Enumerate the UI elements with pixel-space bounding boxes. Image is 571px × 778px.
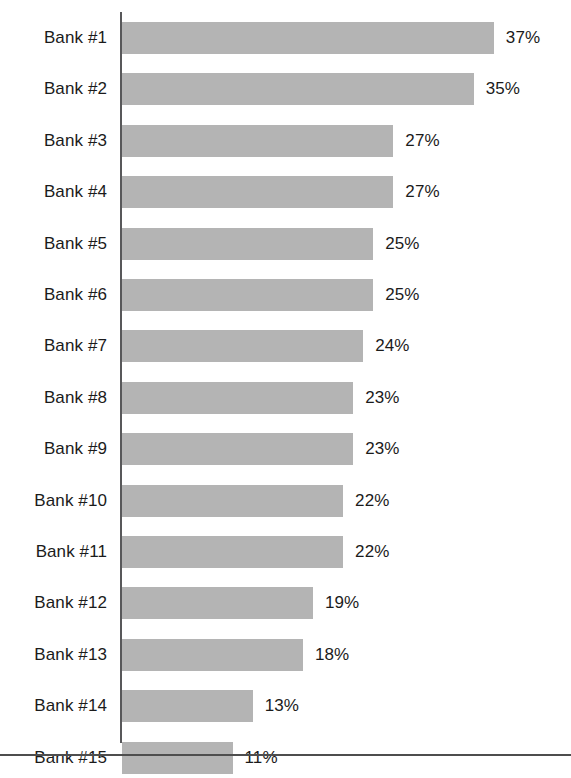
- chart-row: Bank #1022%: [0, 485, 571, 536]
- bar: [122, 639, 303, 671]
- chart-row: Bank #625%: [0, 279, 571, 330]
- category-label: Bank #7: [0, 336, 107, 356]
- bar-value-label: 13%: [265, 696, 299, 716]
- bar-value-label: 23%: [365, 439, 399, 459]
- bar: [122, 330, 363, 362]
- chart-row: Bank #1219%: [0, 587, 571, 638]
- category-label: Bank #1: [0, 28, 107, 48]
- bar: [122, 73, 474, 105]
- category-label: Bank #11: [0, 542, 107, 562]
- chart-row: Bank #235%: [0, 73, 571, 124]
- category-label: Bank #12: [0, 593, 107, 613]
- chart-row: Bank #1511%: [0, 742, 571, 778]
- bar: [122, 742, 233, 774]
- bar: [122, 690, 253, 722]
- bar-value-label: 18%: [315, 645, 349, 665]
- bar-value-label: 27%: [405, 182, 439, 202]
- category-label: Bank #5: [0, 234, 107, 254]
- category-label: Bank #3: [0, 131, 107, 151]
- bar-value-label: 25%: [385, 234, 419, 254]
- category-label: Bank #8: [0, 388, 107, 408]
- figure-bottom-rule: [0, 754, 571, 756]
- bar-value-label: 23%: [365, 388, 399, 408]
- bar: [122, 279, 373, 311]
- category-label: Bank #6: [0, 285, 107, 305]
- plot-area: Bank #137%Bank #235%Bank #327%Bank #427%…: [0, 12, 571, 743]
- bar: [122, 228, 373, 260]
- chart-row: Bank #1122%: [0, 536, 571, 587]
- category-label: Bank #9: [0, 439, 107, 459]
- bar: [122, 433, 353, 465]
- bar: [122, 587, 313, 619]
- category-label: Bank #2: [0, 79, 107, 99]
- chart-row: Bank #137%: [0, 22, 571, 73]
- category-label: Bank #14: [0, 696, 107, 716]
- bar-value-label: 22%: [355, 542, 389, 562]
- chart-row: Bank #923%: [0, 433, 571, 484]
- bar: [122, 536, 343, 568]
- bar: [122, 382, 353, 414]
- category-label: Bank #10: [0, 491, 107, 511]
- bar-value-label: 37%: [506, 28, 540, 48]
- bar: [122, 485, 343, 517]
- category-label: Bank #13: [0, 645, 107, 665]
- bar-value-label: 22%: [355, 491, 389, 511]
- bar-value-label: 24%: [375, 336, 409, 356]
- chart-row: Bank #1413%: [0, 690, 571, 741]
- bar-value-label: 27%: [405, 131, 439, 151]
- chart-row: Bank #1318%: [0, 639, 571, 690]
- chart-row: Bank #327%: [0, 125, 571, 176]
- chart-row: Bank #427%: [0, 176, 571, 227]
- chart-row: Bank #724%: [0, 330, 571, 381]
- chart-row: Bank #525%: [0, 228, 571, 279]
- bar: [122, 125, 393, 157]
- chart-row: Bank #823%: [0, 382, 571, 433]
- bar-value-label: 25%: [385, 285, 419, 305]
- bar-value-label: 11%: [245, 748, 278, 768]
- category-label: Bank #15: [0, 748, 107, 768]
- bar: [122, 22, 494, 54]
- bar-value-label: 19%: [325, 593, 359, 613]
- bar: [122, 176, 393, 208]
- category-label: Bank #4: [0, 182, 107, 202]
- bar-value-label: 35%: [486, 79, 520, 99]
